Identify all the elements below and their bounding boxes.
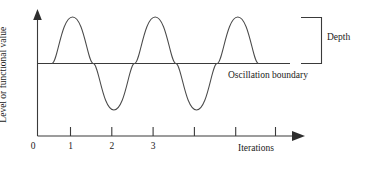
x-tick-label-2: 2: [109, 142, 114, 152]
x-tick-label-1: 1: [68, 142, 73, 152]
x-axis-title: Iterations: [238, 144, 274, 154]
x-tick-label-0: 0: [31, 142, 36, 152]
depth-label: Depth: [327, 33, 350, 43]
y-axis-arrowhead: [33, 9, 42, 20]
figure-canvas: [0, 0, 374, 170]
depth-bracket: [301, 18, 322, 64]
x-tick-label-3: 3: [151, 142, 156, 152]
oscillation-boundary-label: Oscillation boundary: [228, 71, 308, 81]
x-axis-ticks: [71, 127, 276, 136]
x-axis-arrowhead: [292, 131, 305, 141]
y-axis-title: Level or functional value: [0, 27, 9, 123]
figure-root: Level or functional value 0 1 2 3 Iterat…: [0, 0, 374, 170]
